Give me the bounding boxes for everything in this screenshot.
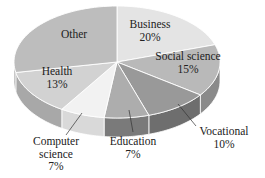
pie-chart: Business20%Social science15%Vocational10… [0,0,265,178]
label-vocational: Vocational10% [200,125,249,150]
label-education: Education7% [110,135,157,160]
label-computer-science: Computerscience7% [33,135,79,172]
slice-side-education [104,115,149,137]
label-other: Other [61,28,87,40]
